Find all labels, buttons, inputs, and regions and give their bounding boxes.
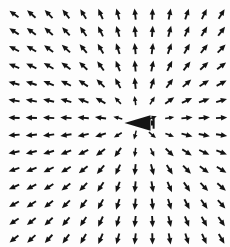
field-arrow [113, 163, 123, 176]
field-arrow [147, 130, 157, 139]
field-arrow [148, 77, 157, 89]
field-arrow [95, 114, 107, 121]
field-arrow [132, 25, 139, 37]
field-arrow [25, 233, 37, 245]
field-arrow [94, 95, 107, 105]
field-arrow [114, 8, 122, 20]
field-arrow [95, 198, 105, 211]
field-arrow [8, 79, 20, 87]
field-arrow [8, 44, 21, 54]
field-arrow [8, 182, 21, 192]
field-arrow [113, 42, 122, 54]
field-arrow [199, 25, 210, 37]
field-arrow [114, 233, 122, 245]
field-arrow [215, 60, 227, 71]
field-arrow [8, 216, 20, 227]
field-arrow [148, 147, 156, 157]
field-arrow [43, 8, 55, 20]
field-arrow [166, 233, 173, 245]
field-arrow [216, 115, 228, 121]
field-arrow [181, 96, 194, 106]
field-arrow [42, 97, 54, 105]
field-arrow [25, 132, 37, 139]
field-arrow [216, 43, 228, 55]
field-arrow [8, 8, 20, 19]
field-arrow [164, 77, 175, 89]
field-arrow [77, 147, 90, 157]
field-arrow [25, 79, 37, 88]
field-arrow [132, 77, 139, 89]
field-arrow [43, 25, 55, 37]
field-arrow [113, 181, 122, 193]
field-arrow [215, 96, 227, 104]
field-arrow [198, 148, 211, 158]
field-arrow [95, 77, 107, 89]
field-arrow [77, 181, 89, 193]
field-arrow [77, 43, 88, 55]
field-arrow [78, 215, 89, 227]
field-arrow [77, 164, 89, 175]
field-arrow [60, 78, 73, 88]
field-arrow [166, 8, 174, 20]
field-arrow [132, 164, 139, 176]
field-arrow [216, 25, 227, 37]
field-arrow [181, 164, 193, 176]
field-arrow [132, 60, 139, 72]
field-arrow [42, 79, 55, 88]
field-arrow [182, 198, 192, 211]
field-arrow [42, 43, 54, 54]
field-arrow [199, 8, 209, 21]
field-arrow [198, 164, 210, 175]
field-arrow [96, 8, 106, 21]
field-arrow [8, 165, 20, 174]
field-arrow [182, 42, 192, 55]
field-arrow [149, 198, 156, 210]
field-arrow [198, 96, 210, 105]
field-arrow [216, 181, 228, 193]
field-arrow [43, 216, 55, 228]
field-arrow [113, 114, 123, 121]
field-arrow [60, 233, 71, 245]
field-arrow [114, 215, 122, 227]
field-arrow [132, 181, 139, 193]
field-arrow [42, 199, 54, 210]
field-arrow [182, 181, 193, 193]
field-arrow [216, 198, 228, 210]
field-arrow [132, 216, 139, 228]
field-arrow [25, 199, 37, 210]
field-arrow [42, 61, 54, 71]
field-arrow [94, 131, 106, 140]
field-arrow [25, 216, 37, 227]
singularity-marker [124, 115, 154, 131]
field-arrow [60, 132, 72, 139]
field-arrow [216, 215, 227, 227]
field-arrow [43, 115, 55, 121]
field-arrow [149, 43, 156, 55]
field-arrow [8, 149, 20, 157]
field-arrow [165, 42, 174, 54]
field-arrow [25, 8, 37, 20]
field-arrow [25, 43, 37, 54]
field-arrow [215, 148, 227, 157]
field-arrow [216, 233, 226, 246]
field-arrow [148, 95, 157, 105]
field-arrow [132, 43, 139, 55]
field-arrow [42, 165, 55, 175]
field-arrow [25, 61, 38, 71]
field-arrow [149, 60, 157, 72]
field-arrow [95, 164, 107, 176]
field-arrow [8, 233, 20, 244]
field-arrow [198, 60, 210, 72]
field-arrow [164, 147, 176, 159]
field-arrow [181, 77, 193, 89]
field-arrow [96, 233, 105, 246]
field-arrow [181, 60, 192, 72]
field-arrow [198, 78, 210, 89]
field-arrow [149, 181, 156, 193]
field-arrow [60, 181, 72, 192]
field-arrow [42, 148, 54, 157]
field-arrow [8, 115, 19, 121]
field-arrow [77, 131, 89, 139]
field-arrow [95, 181, 106, 193]
field-arrow [198, 131, 210, 139]
